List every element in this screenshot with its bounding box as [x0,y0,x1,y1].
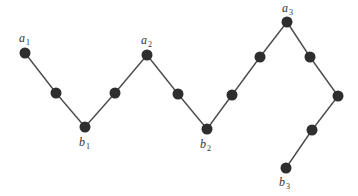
node-a3 [282,17,293,28]
label-b3: b3 [279,175,290,191]
label-a2: a2 [141,33,152,49]
node-b3 [281,163,292,174]
node-a2 [142,50,153,61]
edge-n3-b2 [178,94,207,129]
diagram-canvas: a1b1a2b2a3b3 [0,0,358,196]
edge-n4-n5 [232,57,260,95]
node-n8 [307,125,318,136]
label-b2: b2 [200,137,211,153]
edge-b2-n4 [207,95,232,129]
nodes-group [20,17,344,174]
edge-n2-a2 [115,55,147,93]
node-n2 [110,88,121,99]
node-b1 [80,122,91,133]
node-n3 [173,89,184,100]
node-n6 [305,52,316,63]
node-n5 [255,52,266,63]
node-b2 [202,124,213,135]
node-n1 [51,88,62,99]
label-a1: a1 [19,31,30,47]
label-b1: b1 [79,135,90,151]
zigzag-path-graph: a1b1a2b2a3b3 [0,0,358,196]
node-n7 [333,91,344,102]
label-a3: a3 [282,1,293,17]
edge-n1-b1 [56,93,85,127]
edge-n7-n8 [312,96,338,130]
edge-n6-n7 [310,57,338,96]
node-n4 [227,90,238,101]
edge-a1-n1 [25,53,56,93]
edge-a3-n6 [287,22,310,57]
node-a1 [20,48,31,59]
edge-n8-b3 [286,130,312,168]
edge-n5-a3 [260,22,287,57]
edge-a2-n3 [147,55,178,94]
edge-b1-n2 [85,93,115,127]
